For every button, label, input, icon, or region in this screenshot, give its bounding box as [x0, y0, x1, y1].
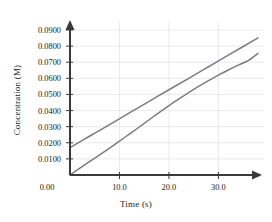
x-axis-title: Time (s) [0, 199, 272, 209]
x-gridlines [119, 22, 218, 175]
y-tick-label: 0.0500 [38, 90, 61, 99]
y-axis-arrow-icon [66, 20, 75, 30]
series-straight-line [70, 38, 258, 148]
y-gridlines [70, 30, 264, 159]
y-tick-label: 0.0200 [38, 139, 61, 148]
y-tick-label: 0.0400 [38, 107, 61, 116]
y-tick-label: 0.0700 [38, 58, 61, 67]
x-axis-arrow-icon [252, 171, 262, 180]
chart-plot-area: 0.01000.02000.03000.04000.05000.06000.07… [0, 0, 272, 222]
y-tick-label: 0.0600 [38, 74, 61, 83]
x-tick-label: 10.0 [112, 183, 127, 192]
series-curved-line [70, 53, 258, 175]
tick-marks [66, 30, 218, 179]
data-series-group [70, 38, 258, 175]
y-tick-label: 0.0100 [38, 155, 61, 164]
y-tick-label: 0.0900 [38, 26, 61, 35]
x-tick-label: 0.00 [40, 183, 55, 192]
y-tick-label: 0.0300 [38, 123, 61, 132]
x-tick-label: 30.0 [211, 183, 226, 192]
y-axis-title: Concentration (M) [12, 30, 22, 170]
axis-lines [66, 20, 263, 180]
y-tick-label: 0.0800 [38, 42, 61, 51]
x-tick-labels: 0.0010.020.030.0 [40, 183, 226, 192]
x-tick-label: 20.0 [162, 183, 177, 192]
chart-figure: 0.01000.02000.03000.04000.05000.06000.07… [0, 0, 272, 222]
y-tick-labels: 0.01000.02000.03000.04000.05000.06000.07… [38, 26, 61, 164]
